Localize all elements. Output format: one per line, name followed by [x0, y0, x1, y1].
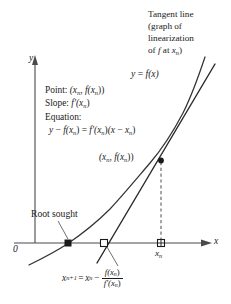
newton-iteration-formula: xn+1 = xn − f(xn) f′(xn)	[62, 268, 124, 288]
formula-fraction: f(xn) f′(xn)	[102, 268, 123, 288]
point-open-2: (x	[88, 85, 95, 95]
newton-method-figure: Tangent line (graph of linearization of …	[0, 0, 231, 304]
tangency-point-label: (xn, f(xn))	[99, 152, 134, 163]
tangent-note-line-4: of f at xn)	[148, 44, 194, 57]
curve-equation-label: y = f(x)	[131, 68, 159, 79]
x-axis	[14, 239, 212, 246]
slope-close: )	[86, 98, 89, 108]
eq-open-1: (x	[66, 125, 73, 135]
equation-heading: Equation:	[45, 111, 135, 124]
num-close: )	[117, 267, 120, 277]
x-axis-label: x	[214, 235, 218, 246]
tangent-note-of: of	[148, 45, 158, 55]
tangent-note-line-2: (graph of	[148, 20, 194, 32]
formula-lhs-sub: n+1	[66, 274, 77, 282]
xn-tick-sub: n	[159, 252, 162, 259]
formula-rhs-sub: n	[89, 274, 92, 282]
next-iterate-marker-open-square	[101, 240, 108, 247]
eq-open-3: (x	[108, 125, 115, 135]
point-label: Point:	[45, 85, 70, 95]
eq-equals: =	[79, 125, 89, 135]
slope-row: Slope: f′(xn)	[45, 97, 135, 110]
tangency-point-dot	[158, 158, 164, 164]
formula-numerator: f(xn)	[103, 268, 122, 278]
current-iterate-marker-crossed-square	[158, 240, 165, 247]
point-row: Point: (xn, f(xn))	[45, 84, 135, 97]
formula-equals: =	[78, 273, 83, 284]
formula-minus: −	[94, 273, 99, 284]
tangent-line-annotation: Tangent line (graph of linearization of …	[148, 8, 194, 57]
formula-denominator: f′(xn)	[102, 278, 123, 289]
curve-label-eq: =	[135, 68, 145, 79]
curve-label-arg: (x)	[148, 68, 159, 79]
tangent-equation-block: Point: (xn, f(xn)) Slope: f′(xn) Equatio…	[45, 84, 135, 137]
equation-row: y − f(xn) = f′(xn)(x − xn)	[45, 124, 135, 137]
tangent-note-paren: )	[179, 45, 182, 55]
tangent-note-line-1: Tangent line	[148, 8, 194, 20]
root-marker-filled-square	[65, 240, 72, 247]
next-iterate-leader-line	[107, 247, 118, 266]
origin-label: 0	[13, 243, 18, 254]
point-open: (x	[70, 85, 77, 95]
slope-label: Slope:	[45, 98, 71, 108]
tangency-close: ))	[127, 152, 133, 162]
y-axis-label: y	[29, 52, 33, 63]
eq-close-3: )	[132, 125, 135, 135]
tangent-note-line-3: linearization	[148, 32, 194, 44]
tangent-note-at: at	[161, 45, 172, 55]
xn-tick-label: xn	[155, 248, 162, 259]
root-leader-line	[58, 221, 68, 239]
num-open: (x	[107, 267, 114, 277]
tangency-open-2: (x	[117, 152, 124, 162]
point-close: ))	[98, 85, 104, 95]
eq-minus-2: −	[115, 125, 125, 135]
den-close: )	[118, 278, 121, 288]
eq-minus-1: −	[53, 125, 63, 135]
root-sought-label: Root sought	[31, 208, 78, 219]
den-open: (x	[108, 278, 115, 288]
